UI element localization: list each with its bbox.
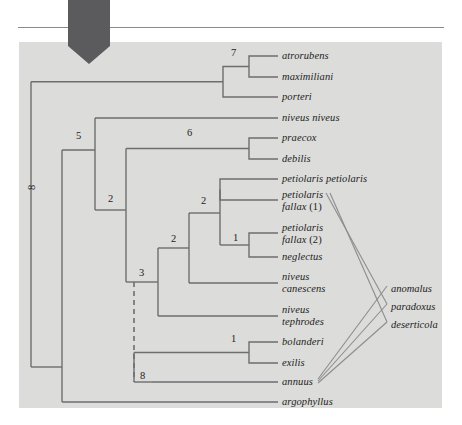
tree-lines-layer [0, 0, 462, 425]
taxon-label-praecox: praecox [282, 132, 317, 144]
node-label-2-upper: 2 [108, 193, 113, 204]
node-label-5: 5 [76, 130, 81, 141]
taxon-label-exilis: exilis [282, 357, 305, 369]
taxon-label-neglectus: neglectus [282, 251, 323, 263]
taxon-label-petiolaris-fallax-2: petiolaris fallax (2) [282, 222, 323, 245]
taxon-label-niveus-tephrodes: niveustephrodes [282, 304, 324, 327]
taxon-label-maximiliani: maximiliani [282, 71, 333, 83]
hybrid-label-paradoxus: paradoxus [391, 301, 435, 312]
taxon-label-argophyllus: argophyllus [282, 396, 333, 408]
taxon-label-niveus-niveus: niveus niveus [282, 112, 340, 124]
taxon-label-atrorubens: atrorubens [282, 50, 329, 62]
hybrid-label-deserticola: deserticola [391, 319, 438, 330]
taxon-label-bolanderi: bolanderi [282, 336, 324, 348]
down-arrow-annotation [68, 0, 110, 64]
hybrid-label-anomalus: anomalus [391, 283, 432, 294]
taxon-label-porteri: porteri [282, 91, 312, 103]
node-label-1-fallax: 1 [233, 232, 238, 243]
node-label-7: 7 [231, 47, 236, 58]
node-label-8-root: 8 [26, 185, 37, 190]
node-label-6: 6 [187, 127, 192, 138]
node-label-2-lower: 2 [171, 233, 176, 244]
phylogeny-figure: atrorubens maximiliani porteri niveus ni… [0, 0, 462, 425]
taxon-label-annuus: annuus [282, 376, 313, 388]
tree-branches [31, 56, 278, 402]
node-label-1-bolanderi: 1 [231, 333, 236, 344]
taxon-label-niveus-canescens: niveuscanescens [282, 271, 325, 294]
taxon-label-petiolaris-fallax-1: petiolaris fallax (1) [282, 189, 323, 212]
node-label-2-mid: 2 [201, 195, 206, 206]
hybrid-origin-lines [318, 193, 387, 383]
node-label-8-annuus: 8 [140, 370, 145, 381]
taxon-label-petiolaris-petiolaris: petiolaris petiolaris [282, 173, 367, 185]
node-label-3: 3 [139, 267, 144, 278]
taxon-label-debilis: debilis [282, 153, 311, 165]
